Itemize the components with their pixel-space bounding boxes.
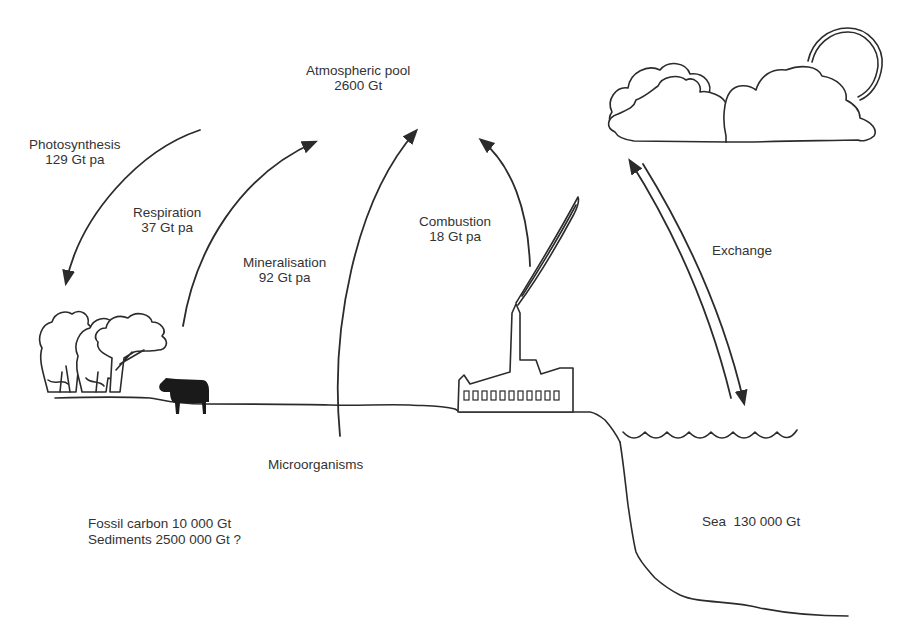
- mineralisation-arrow: [338, 131, 416, 436]
- cow-icon: [159, 378, 209, 414]
- exchange-arrows: [630, 161, 744, 403]
- smoke-plume-icon: [516, 197, 579, 305]
- combustion-arrow: [481, 140, 530, 266]
- fossil-carbon-label: Fossil carbon 10 000 Gt: [88, 516, 231, 531]
- photosynthesis-value: 129 Gt pa: [29, 152, 121, 167]
- atmospheric-pool-label: Atmospheric pool 2600 Gt: [306, 63, 410, 93]
- factory-icon: [458, 304, 573, 412]
- microorganisms-label: Microorganisms: [268, 457, 363, 472]
- respiration-value: 37 Gt pa: [133, 220, 201, 235]
- exchange-label: Exchange: [712, 243, 772, 258]
- mineralisation-name: Mineralisation: [243, 255, 326, 270]
- clouds-icon: [609, 64, 876, 142]
- coastline: [620, 442, 848, 616]
- respiration-arrow: [183, 142, 315, 326]
- mineralisation-value: 92 Gt pa: [243, 270, 326, 285]
- combustion-name: Combustion: [419, 214, 491, 229]
- combustion-label: Combustion 18 Gt pa: [419, 214, 491, 244]
- photosynthesis-name: Photosynthesis: [29, 137, 121, 152]
- atmospheric-pool-name: Atmospheric pool: [306, 63, 410, 78]
- sea-label: Sea 130 000 Gt: [702, 514, 800, 529]
- sea-waves-icon: [623, 430, 797, 438]
- atmospheric-pool-value: 2600 Gt: [306, 78, 410, 93]
- respiration-name: Respiration: [133, 205, 201, 220]
- carbon-cycle-diagram: Atmospheric pool 2600 Gt Photosynthesis …: [0, 0, 905, 639]
- photosynthesis-label: Photosynthesis 129 Gt pa: [29, 137, 121, 167]
- mineralisation-label: Mineralisation 92 Gt pa: [243, 255, 326, 285]
- trees-icon: [40, 312, 167, 392]
- combustion-value: 18 Gt pa: [419, 229, 491, 244]
- sediments-label: Sediments 2500 000 Gt ?: [88, 532, 241, 547]
- respiration-label: Respiration 37 Gt pa: [133, 205, 201, 235]
